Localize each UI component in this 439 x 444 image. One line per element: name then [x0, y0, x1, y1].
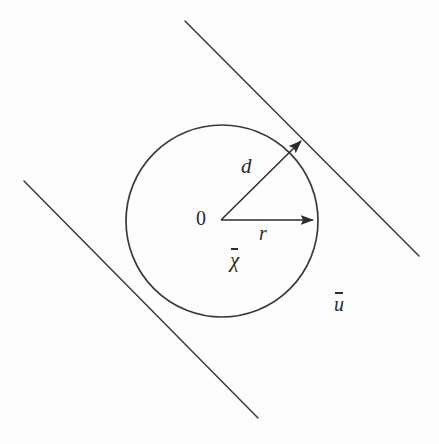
circle-boundary: [126, 125, 318, 317]
radius-label: r: [259, 223, 267, 243]
geometry-figure: [0, 0, 439, 444]
origin-label: 0: [196, 208, 206, 228]
lower-line: [24, 181, 258, 418]
distance-label: d: [241, 156, 252, 177]
distance-arrow: [221, 141, 301, 220]
diagram-canvas: 0 d r χ u: [0, 0, 439, 444]
chi-bar-glyph: χ: [230, 250, 239, 271]
u-bar-glyph: u: [334, 294, 344, 314]
inner-region-label: χ: [230, 250, 239, 271]
outer-region-label: u: [334, 294, 344, 314]
